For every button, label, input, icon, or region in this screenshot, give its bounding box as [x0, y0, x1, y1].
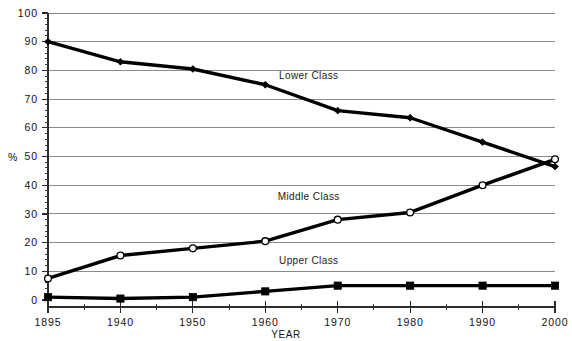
data-point-marker	[189, 294, 196, 301]
y-axis-title: %	[8, 151, 17, 163]
y-tick-label: 90	[25, 35, 38, 47]
data-point-marker	[334, 216, 341, 223]
x-tick-label: 1940	[107, 316, 134, 328]
line-chart: 0102030405060708090100 18951940195019601…	[0, 0, 572, 341]
data-point-marker	[479, 182, 486, 189]
annotation-upper-class: Upper Class	[279, 255, 338, 266]
x-tick-label: 1895	[35, 316, 62, 328]
data-point-marker	[262, 288, 269, 295]
data-point-marker	[189, 245, 196, 252]
x-tick-label: 1960	[252, 316, 279, 328]
x-axis-title: YEAR	[271, 329, 301, 340]
data-point-marker	[407, 282, 414, 289]
data-point-marker	[334, 282, 341, 289]
annotation-lower-class: Lower Class	[279, 70, 338, 81]
data-point-marker	[45, 275, 52, 282]
data-point-marker	[551, 282, 558, 289]
y-tick-label: 10	[25, 265, 38, 277]
data-point-marker	[44, 294, 51, 301]
y-tick-label: 0	[31, 294, 38, 306]
x-tick-label: 1990	[469, 316, 496, 328]
x-tick-label: 1980	[397, 316, 424, 328]
data-point-marker	[407, 209, 414, 216]
y-tick-label: 80	[25, 64, 38, 76]
x-tick-label: 1950	[179, 316, 206, 328]
y-tick-label: 100	[18, 7, 38, 19]
chart-container: 0102030405060708090100 18951940195019601…	[0, 0, 572, 341]
data-point-marker	[117, 295, 124, 302]
data-point-marker	[262, 238, 269, 245]
annotation-middle-class: Middle Class	[278, 191, 340, 202]
y-tick-label: 70	[25, 93, 38, 105]
x-tick-label: 2000	[542, 316, 569, 328]
data-point-marker	[117, 252, 124, 259]
y-tick-label: 60	[25, 121, 38, 133]
x-tick-label: 1970	[324, 316, 351, 328]
y-tick-label: 50	[25, 150, 38, 162]
data-point-marker	[552, 156, 559, 163]
y-tick-label: 30	[25, 208, 38, 220]
y-tick-label: 40	[25, 179, 38, 191]
data-point-marker	[479, 282, 486, 289]
y-tick-label: 20	[25, 236, 38, 248]
